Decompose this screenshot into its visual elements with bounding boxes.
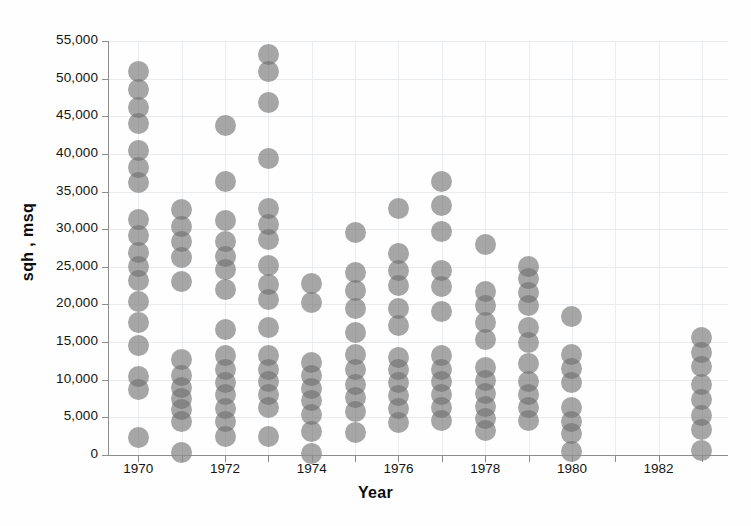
y-axis-tick bbox=[102, 154, 109, 155]
y-axis-tick bbox=[102, 342, 109, 343]
x-axis-tick-label: 1972 bbox=[195, 461, 255, 476]
y-axis-tick bbox=[102, 417, 109, 418]
data-point bbox=[431, 171, 452, 192]
gridline-horizontal bbox=[108, 79, 728, 80]
data-point bbox=[345, 322, 366, 343]
data-point bbox=[128, 113, 149, 134]
data-point bbox=[388, 198, 409, 219]
data-point bbox=[345, 401, 366, 422]
y-axis-tick bbox=[102, 455, 109, 456]
gridline-horizontal bbox=[108, 116, 728, 117]
y-axis-tick bbox=[102, 304, 109, 305]
data-point bbox=[388, 315, 409, 336]
data-point bbox=[215, 319, 236, 340]
gridline-horizontal bbox=[108, 304, 728, 305]
data-point bbox=[431, 195, 452, 216]
data-point bbox=[258, 92, 279, 113]
data-point bbox=[258, 229, 279, 250]
data-point bbox=[561, 372, 582, 393]
data-point bbox=[258, 148, 279, 169]
data-point bbox=[258, 426, 279, 447]
data-point bbox=[691, 419, 712, 440]
data-point bbox=[388, 275, 409, 296]
data-point bbox=[215, 210, 236, 231]
data-point bbox=[431, 221, 452, 242]
scatter-chart: 05,00010,00015,00020,00025,00030,00035,0… bbox=[0, 0, 751, 526]
data-point bbox=[128, 270, 149, 291]
data-point bbox=[258, 255, 279, 276]
data-point bbox=[345, 422, 366, 443]
gridline-vertical bbox=[659, 41, 660, 455]
gridline-vertical bbox=[615, 41, 616, 455]
x-axis-tick bbox=[268, 455, 269, 462]
x-axis-tick-label: 1978 bbox=[455, 461, 515, 476]
data-point bbox=[431, 410, 452, 431]
data-point bbox=[128, 335, 149, 356]
y-axis-tick bbox=[102, 41, 109, 42]
y-axis-tick-label: 30,000 bbox=[56, 220, 98, 235]
x-axis-tick bbox=[442, 455, 443, 462]
data-point bbox=[128, 172, 149, 193]
data-point bbox=[215, 171, 236, 192]
y-axis-tick bbox=[102, 380, 109, 381]
gridline-horizontal bbox=[108, 154, 728, 155]
y-axis-tick bbox=[102, 192, 109, 193]
y-axis-tick-label: 45,000 bbox=[56, 107, 98, 122]
x-axis-tick bbox=[615, 455, 616, 462]
x-axis-tick bbox=[355, 455, 356, 462]
data-point bbox=[518, 332, 539, 353]
gridline-horizontal bbox=[108, 192, 728, 193]
x-axis-title: Year bbox=[0, 484, 751, 502]
y-axis-tick-label: 50,000 bbox=[56, 70, 98, 85]
gridline-horizontal bbox=[108, 267, 728, 268]
data-point bbox=[258, 397, 279, 418]
data-point bbox=[301, 292, 322, 313]
data-point bbox=[258, 61, 279, 82]
y-axis-tick-label: 55,000 bbox=[56, 32, 98, 47]
data-point bbox=[388, 412, 409, 433]
data-point bbox=[301, 421, 322, 442]
gridline-horizontal bbox=[108, 380, 728, 381]
x-axis-tick-label: 1970 bbox=[108, 461, 168, 476]
data-point bbox=[258, 289, 279, 310]
data-point bbox=[475, 420, 496, 441]
data-point bbox=[431, 301, 452, 322]
gridline-horizontal bbox=[108, 41, 728, 42]
data-point bbox=[128, 427, 149, 448]
x-axis-tick-label: 1980 bbox=[542, 461, 602, 476]
x-axis-tick bbox=[182, 455, 183, 462]
data-point bbox=[171, 247, 192, 268]
y-axis-tick bbox=[102, 79, 109, 80]
x-axis-tick bbox=[702, 455, 703, 462]
y-axis-title: sqh , msq bbox=[19, 122, 37, 362]
y-axis-tick bbox=[102, 267, 109, 268]
plot-area bbox=[108, 41, 728, 455]
y-axis-tick bbox=[102, 116, 109, 117]
y-axis-tick-label: 25,000 bbox=[56, 258, 98, 273]
gridline-horizontal bbox=[108, 342, 728, 343]
y-axis-tick-label: 20,000 bbox=[56, 295, 98, 310]
y-axis-tick-label: 10,000 bbox=[56, 371, 98, 386]
data-point bbox=[475, 234, 496, 255]
data-point bbox=[128, 291, 149, 312]
y-axis-tick bbox=[102, 229, 109, 230]
data-point bbox=[215, 426, 236, 447]
data-point bbox=[561, 306, 582, 327]
data-point bbox=[345, 298, 366, 319]
data-point bbox=[518, 410, 539, 431]
y-axis-tick-label: 5,000 bbox=[64, 408, 98, 423]
data-point bbox=[345, 222, 366, 243]
data-point bbox=[215, 115, 236, 136]
x-axis-line bbox=[108, 455, 728, 456]
x-axis-tick bbox=[529, 455, 530, 462]
data-point bbox=[171, 411, 192, 432]
y-axis-tick-labels: 05,00010,00015,00020,00025,00030,00035,0… bbox=[0, 0, 98, 526]
data-point bbox=[518, 295, 539, 316]
y-axis-tick-label: 40,000 bbox=[56, 145, 98, 160]
data-point bbox=[128, 312, 149, 333]
data-point bbox=[431, 276, 452, 297]
y-axis-line bbox=[108, 41, 109, 455]
data-point bbox=[215, 259, 236, 280]
x-axis-tick-label: 1982 bbox=[629, 461, 689, 476]
data-point bbox=[128, 379, 149, 400]
